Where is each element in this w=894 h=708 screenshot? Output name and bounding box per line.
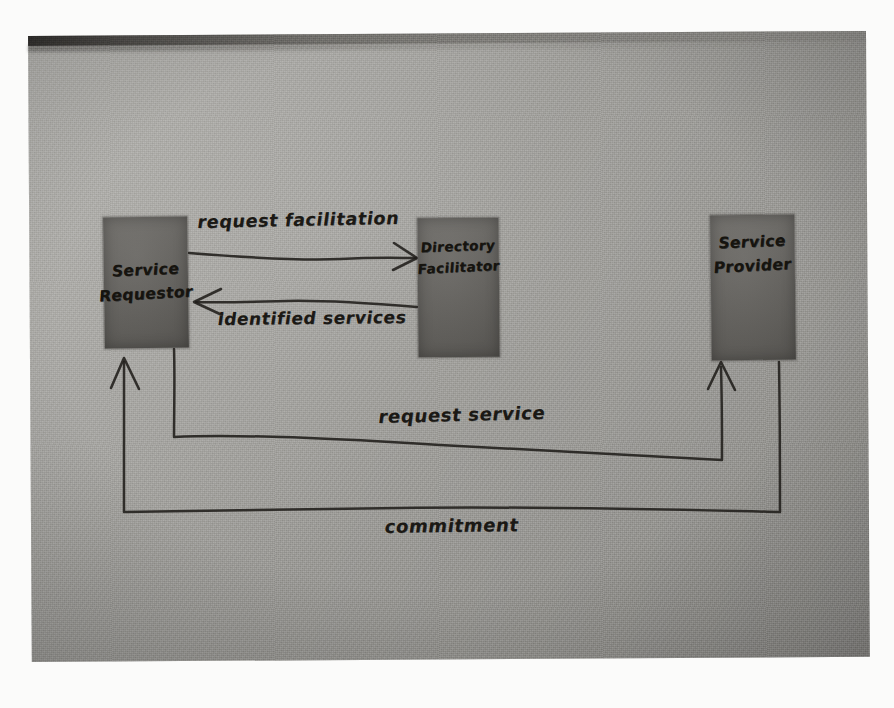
node-service-requestor-line1: Service [111, 258, 180, 284]
node-service-requestor[interactable]: Service Requestor [103, 216, 189, 348]
node-service-provider[interactable]: Service Provider [710, 214, 796, 360]
screenshot-root: Service Requestor Directory Facilitator … [0, 0, 894, 708]
edge-label-identified-services: identified services [216, 307, 408, 329]
node-directory-facilitator-line1: Directory [420, 235, 496, 258]
node-service-provider-line1: Service [718, 230, 787, 256]
edge-label-request-facilitation: request facilitation [196, 208, 400, 232]
node-directory-facilitator[interactable]: Directory Facilitator [417, 218, 499, 358]
node-directory-facilitator-line2: Facilitator [417, 255, 501, 279]
edge-label-request-service: request service [377, 402, 547, 427]
node-service-provider-line2: Provider [713, 253, 792, 280]
node-service-requestor-line2: Requestor [98, 280, 194, 308]
edge-label-commitment: commitment [383, 514, 520, 537]
